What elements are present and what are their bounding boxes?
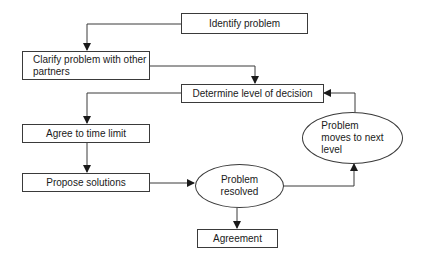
node-label: Identify problem bbox=[209, 18, 280, 30]
node-propose-solutions: Propose solutions bbox=[22, 173, 150, 192]
edge-next-level-to-determine bbox=[324, 93, 355, 112]
node-problem-resolved: Problem resolved bbox=[195, 164, 284, 208]
node-agreement: Agreement bbox=[197, 229, 278, 248]
node-label: Agree to time limit bbox=[46, 128, 126, 140]
node-label: Problem moves to next level bbox=[321, 120, 383, 156]
node-label: Determine level of decision bbox=[192, 88, 312, 100]
node-problem-next-level: Problem moves to next level bbox=[302, 112, 403, 164]
flowchart-canvas: Identify problem Clarify problem with ot… bbox=[0, 0, 423, 259]
node-label: Propose solutions bbox=[46, 177, 126, 189]
node-determine-level: Determine level of decision bbox=[181, 84, 324, 103]
node-identify-problem: Identify problem bbox=[181, 13, 308, 34]
node-label: Problem resolved bbox=[221, 174, 259, 198]
node-clarify-problem: Clarify problem with other partners bbox=[22, 51, 150, 80]
node-label: Clarify problem with other partners bbox=[33, 54, 146, 78]
edge-clarify-to-determine bbox=[150, 66, 255, 83]
edge-identify-to-clarify bbox=[87, 24, 181, 50]
node-label: Agreement bbox=[213, 233, 262, 245]
edge-determine-to-agree bbox=[87, 93, 181, 123]
node-agree-time-limit: Agree to time limit bbox=[22, 124, 150, 143]
edge-resolved-to-next-level bbox=[283, 164, 354, 186]
